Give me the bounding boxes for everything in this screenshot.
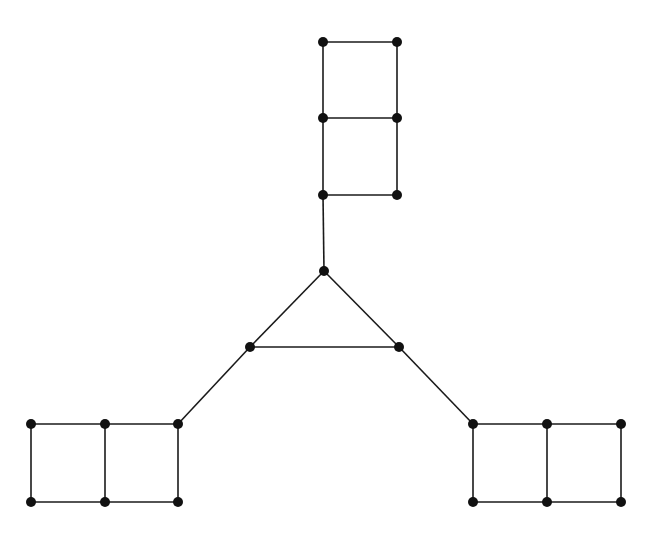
node-u3 <box>318 113 328 123</box>
node-l1 <box>26 419 36 429</box>
node-t2 <box>245 342 255 352</box>
edge-t2-l3 <box>178 347 250 424</box>
node-r3 <box>616 419 626 429</box>
edge-t1-u5 <box>323 195 324 271</box>
node-l6 <box>173 497 183 507</box>
edge-t1-t3 <box>324 271 399 347</box>
graph-diagram <box>0 0 649 534</box>
node-l2 <box>100 419 110 429</box>
node-u4 <box>392 113 402 123</box>
node-u6 <box>392 190 402 200</box>
node-l5 <box>100 497 110 507</box>
edge-t1-t2 <box>250 271 324 347</box>
node-t1 <box>319 266 329 276</box>
node-u5 <box>318 190 328 200</box>
node-l3 <box>173 419 183 429</box>
edge-t3-r1 <box>399 347 473 424</box>
node-r1 <box>468 419 478 429</box>
node-l4 <box>26 497 36 507</box>
node-t3 <box>394 342 404 352</box>
nodes-layer <box>26 37 626 507</box>
node-r5 <box>542 497 552 507</box>
node-r4 <box>468 497 478 507</box>
node-r2 <box>542 419 552 429</box>
node-u2 <box>392 37 402 47</box>
node-u1 <box>318 37 328 47</box>
node-r6 <box>616 497 626 507</box>
